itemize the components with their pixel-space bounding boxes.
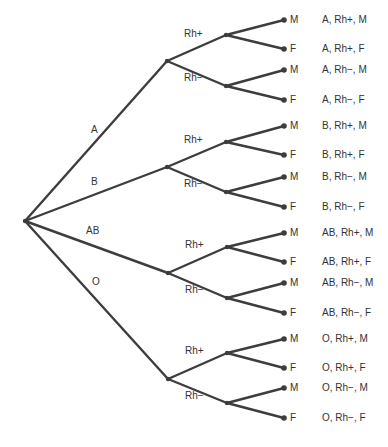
outcome-label: A, Rh−, F bbox=[322, 95, 365, 105]
outcome-label: AB, Rh+, M bbox=[322, 228, 373, 238]
outcome-label: O, Rh+, M bbox=[322, 334, 368, 344]
leaf-node bbox=[281, 46, 287, 52]
sex-label: F bbox=[290, 202, 296, 212]
leaf-node bbox=[281, 152, 287, 158]
sex-label: F bbox=[290, 308, 296, 318]
outcome-label: B, Rh+, M bbox=[322, 121, 367, 131]
sex-edge bbox=[227, 283, 284, 298]
outcome-label: A, Rh+, F bbox=[322, 44, 365, 54]
leaf-node bbox=[281, 365, 287, 371]
outcome-label: A, Rh−, M bbox=[322, 65, 367, 75]
sex-label: M bbox=[290, 65, 298, 75]
rh-edge bbox=[168, 353, 227, 379]
rh-label: Rh− bbox=[185, 391, 204, 401]
blood-type-label: A bbox=[91, 125, 98, 135]
sex-label: F bbox=[290, 413, 296, 423]
outcome-label: AB, Rh−, M bbox=[322, 278, 373, 288]
rh-edge bbox=[167, 142, 226, 167]
leaf-node bbox=[281, 67, 287, 73]
outcome-label: AB, Rh−, F bbox=[322, 308, 371, 318]
sex-label: M bbox=[290, 334, 298, 344]
sex-edge bbox=[226, 70, 284, 86]
sex-label: M bbox=[290, 228, 298, 238]
rh-label: Rh+ bbox=[184, 135, 203, 145]
leaf-node bbox=[281, 230, 287, 236]
blood-type-edge bbox=[25, 221, 168, 379]
sex-edge bbox=[226, 86, 284, 100]
sex-edge bbox=[226, 142, 284, 155]
leaf-node bbox=[281, 259, 287, 265]
blood-type-label: O bbox=[92, 277, 100, 287]
sex-edge bbox=[227, 339, 284, 353]
outcome-label: AB, Rh+, F bbox=[322, 257, 371, 267]
blood-type-label: B bbox=[91, 177, 98, 187]
outcome-label: O, Rh−, F bbox=[322, 413, 366, 423]
outcome-label: B, Rh−, F bbox=[322, 202, 365, 212]
sex-edge bbox=[227, 403, 284, 418]
rh-label: Rh− bbox=[184, 179, 203, 189]
sex-edge bbox=[227, 353, 284, 368]
blood-type-edge bbox=[25, 61, 167, 221]
sex-label: M bbox=[290, 121, 298, 131]
rh-label: Rh+ bbox=[185, 240, 204, 250]
outcome-label: O, Rh−, M bbox=[322, 383, 368, 393]
rh-label: Rh+ bbox=[185, 346, 204, 356]
sex-label: F bbox=[290, 95, 296, 105]
blood-type-label: AB bbox=[86, 226, 99, 236]
outcome-label: A, Rh+, M bbox=[322, 15, 367, 25]
sex-edge bbox=[227, 247, 284, 262]
leaf-node bbox=[281, 97, 287, 103]
sex-edge bbox=[226, 192, 284, 207]
sex-edge bbox=[226, 177, 284, 192]
sex-edge bbox=[227, 298, 284, 313]
sex-edge bbox=[227, 388, 284, 403]
outcome-label: B, Rh+, F bbox=[322, 150, 365, 160]
sex-label: M bbox=[290, 278, 298, 288]
sex-label: M bbox=[290, 172, 298, 182]
leaf-node bbox=[281, 204, 287, 210]
outcome-label: O, Rh+, F bbox=[322, 363, 366, 373]
rh-label: Rh− bbox=[185, 285, 204, 295]
leaf-node bbox=[281, 174, 287, 180]
leaf-node bbox=[281, 123, 287, 129]
rh-label: Rh+ bbox=[184, 29, 203, 39]
outcome-label: B, Rh−, M bbox=[322, 172, 367, 182]
leaf-node bbox=[281, 415, 287, 421]
sex-label: F bbox=[290, 363, 296, 373]
leaf-node bbox=[281, 17, 287, 23]
sex-edge bbox=[226, 20, 284, 35]
sex-label: F bbox=[290, 44, 296, 54]
sex-label: M bbox=[290, 383, 298, 393]
leaf-node bbox=[281, 336, 287, 342]
sex-label: F bbox=[290, 150, 296, 160]
sex-label: M bbox=[290, 15, 298, 25]
sex-label: F bbox=[290, 257, 296, 267]
leaf-node bbox=[281, 310, 287, 316]
leaf-node bbox=[281, 280, 287, 286]
leaf-node bbox=[281, 385, 287, 391]
rh-label: Rh− bbox=[184, 73, 203, 83]
sex-edge bbox=[226, 126, 284, 142]
sex-edge bbox=[226, 35, 284, 49]
sex-edge bbox=[227, 233, 284, 247]
rh-edge bbox=[168, 247, 227, 273]
